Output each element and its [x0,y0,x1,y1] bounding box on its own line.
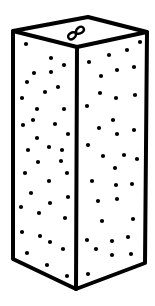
speckle-dot [25,251,29,255]
speckle-dot [115,132,119,136]
speckle-dot [60,148,64,152]
speckle-dot [97,126,101,130]
speckle-dot [26,148,30,152]
speckled-box-drawing [0,0,155,306]
speckle-dot [23,171,27,175]
speckle-dot [122,153,126,157]
speckle-dot [66,132,70,136]
speckle-dot [47,179,51,183]
speckle-dot [125,48,129,52]
speckle-dot [132,65,136,69]
speckle-dot [110,239,114,243]
speckle-dot [20,230,24,234]
speckle-dot [113,166,117,170]
speckle-dot [56,85,60,89]
vertical-front-edge [76,47,77,289]
speckle-dot [32,71,36,75]
speckle-dot [19,205,23,209]
box-faces [13,17,147,289]
speckle-dot [49,70,53,74]
speckle-dot [114,96,118,100]
speckle-dot [36,160,40,164]
speckle-dot [131,217,135,221]
speckle-dot [66,195,70,199]
speckle-dot [61,247,65,251]
speckle-dot [87,60,91,64]
speckle-dot [138,40,142,44]
speckle-dot [98,91,102,95]
box-illustration [0,0,155,306]
speckle-dot [25,80,29,84]
speckle-dot [115,68,119,72]
speckle-dot [35,107,39,111]
speckle-dot [90,179,94,183]
speckle-dot [99,74,103,78]
speckle-dot [62,107,66,111]
speckle-dot [126,235,130,239]
speckle-dot [101,154,105,158]
speckle-dot [85,238,89,242]
speckle-dot [45,263,49,267]
speckle-dot [65,171,69,175]
left-face [13,31,77,289]
speckle-dot [135,157,139,161]
speckle-dot [133,93,137,97]
speckle-dot [63,216,67,220]
speckle-dot [111,118,115,122]
speckle-dot [29,191,33,195]
speckle-dot [31,118,35,122]
speckle-dot [43,90,47,94]
speckle-dot [53,122,57,126]
speckle-dot [110,253,114,257]
speckle-dot [62,63,66,67]
speckle-dot [114,183,118,187]
speckle-dot [132,128,136,132]
speckle-dot [48,201,52,205]
speckle-dot [130,182,134,186]
speckle-dot [86,272,90,276]
speckle-dot [94,247,98,251]
speckle-dot [129,252,133,256]
speckle-dot [20,96,24,100]
speckle-dot [59,159,63,163]
speckle-dot [86,143,90,147]
speckle-dot [100,219,104,223]
speckle-dot [47,145,51,149]
speckle-dot [48,240,52,244]
speckle-dot [37,211,41,215]
speckle-dot [38,234,42,238]
speckle-dot [85,104,89,108]
speckle-dot [107,53,111,57]
speckle-dot [115,197,119,201]
speckle-dot [21,123,25,127]
speckle-dot [96,199,100,203]
speckle-dot [65,274,69,278]
speckle-dot [24,42,28,46]
speckle-dot [49,56,53,60]
speckle-dot [35,136,39,140]
